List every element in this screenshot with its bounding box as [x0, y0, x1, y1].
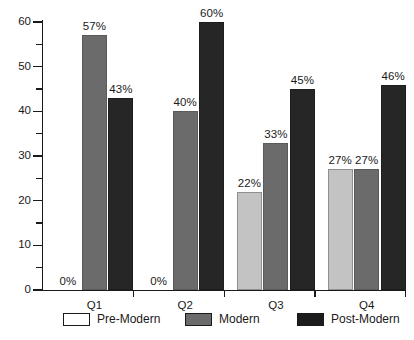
bar — [82, 35, 107, 290]
bar — [237, 192, 262, 290]
x-axis-group-tick — [314, 290, 315, 297]
legend-item-mod[interactable]: Modern — [185, 313, 260, 326]
y-axis-tick — [33, 289, 42, 290]
bar — [290, 89, 315, 290]
y-axis-line — [42, 20, 43, 291]
y-axis-tick — [33, 111, 42, 112]
x-axis-category-label: Q2 — [136, 299, 234, 311]
y-axis-tick — [33, 200, 42, 201]
legend-item-post[interactable]: Post-Modern — [297, 313, 400, 326]
legend-swatch-icon — [297, 313, 324, 326]
bar-value-label: 57% — [75, 20, 114, 32]
x-axis-category-label: Q4 — [318, 299, 414, 311]
bar-value-label: 46% — [374, 70, 413, 82]
y-axis-tick-label: 30 — [0, 150, 31, 161]
bar — [354, 169, 379, 290]
bar — [199, 22, 224, 290]
bar-value-label: 43% — [101, 83, 140, 95]
bar — [381, 85, 406, 290]
bar-value-label: 60% — [192, 7, 231, 19]
x-axis-category-label: Q1 — [45, 299, 143, 311]
chart-legend: Pre-ModernModernPost-Modern — [0, 313, 414, 337]
y-axis-tick — [33, 66, 42, 67]
y-axis-tick — [33, 245, 42, 246]
grouped-bar-chart: 0102030405060 0%57%43%0%40%60%22%33%45%2… — [0, 0, 414, 340]
x-axis-group-tick — [133, 290, 134, 297]
legend-swatch-icon — [185, 313, 212, 326]
bar — [108, 98, 133, 290]
y-axis-tick — [33, 155, 42, 156]
bar — [328, 169, 353, 290]
legend-label: Pre-Modern — [97, 313, 160, 326]
y-axis-tick — [33, 21, 42, 22]
legend-item-pre[interactable]: Pre-Modern — [63, 313, 160, 326]
y-axis-tick-label: 50 — [0, 61, 31, 72]
x-axis-group-tick — [405, 290, 406, 297]
legend-label: Modern — [219, 313, 260, 326]
bar-value-label: 45% — [283, 74, 322, 86]
y-axis-tick-label: 20 — [0, 195, 31, 206]
bar — [173, 111, 198, 290]
bar — [263, 143, 288, 290]
y-axis-tick-label: 40 — [0, 105, 31, 116]
x-axis-group-tick — [224, 290, 225, 297]
y-axis-tick-label: 10 — [0, 239, 31, 250]
y-axis-tick-label: 60 — [0, 16, 31, 27]
y-axis-tick-label: 0 — [0, 284, 31, 295]
legend-label: Post-Modern — [331, 313, 400, 326]
legend-swatch-icon — [63, 313, 90, 326]
x-axis-category-label: Q3 — [227, 299, 325, 311]
